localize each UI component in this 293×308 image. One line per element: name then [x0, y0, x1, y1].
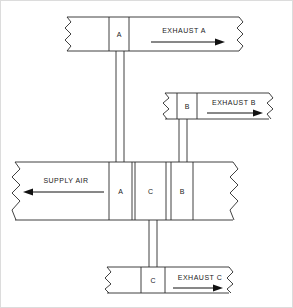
flow-label-exhaust-a: EXHAUST A [162, 27, 206, 34]
break-symbol-right-supply-air [230, 162, 238, 220]
riser-duct-b [179, 119, 187, 162]
flow-label-exhaust-c: EXHAUST C [178, 274, 222, 281]
break-symbol-right-exhaust-c [227, 267, 233, 293]
damper-label-b-supply: B [180, 188, 185, 195]
break-symbol-right-exhaust-a [237, 17, 243, 51]
duct-exhaust-b: B EXHAUST B [163, 93, 273, 119]
duct-exhaust-a: A EXHAUST A [65, 17, 243, 51]
damper-label-c-exhaust-c: C [150, 277, 155, 284]
flow-label-supply-air: SUPPLY AIR [43, 177, 88, 184]
duct-supply-air: A C B SUPPLY AIR [12, 162, 238, 220]
damper-label-c-supply: C [148, 188, 153, 195]
break-symbol-left-exhaust-c [105, 267, 111, 293]
riser-duct-a [116, 51, 124, 162]
flow-arrow-exhaust-c [173, 285, 223, 292]
hvac-duct-schematic: A EXHAUST A B EXHAUST B [1, 1, 292, 307]
flow-arrow-exhaust-b [207, 110, 263, 117]
damper-label-a-supply: A [118, 188, 123, 195]
flow-arrow-exhaust-a [151, 39, 225, 46]
break-symbol-right-exhaust-b [267, 93, 273, 119]
flow-label-exhaust-b: EXHAUST B [212, 99, 256, 106]
diagram-frame: A EXHAUST A B EXHAUST B [0, 0, 293, 308]
break-symbol-left-exhaust-b [163, 93, 169, 119]
damper-label-a-exhaust-a: A [117, 31, 122, 38]
duct-exhaust-c: C EXHAUST C [105, 267, 233, 293]
break-symbol-left-exhaust-a [65, 17, 71, 51]
break-symbol-left-supply-air [12, 162, 20, 220]
riser-duct-c [149, 220, 157, 267]
flow-arrow-supply-air [23, 189, 104, 196]
damper-label-b-exhaust-b: B [185, 103, 190, 110]
